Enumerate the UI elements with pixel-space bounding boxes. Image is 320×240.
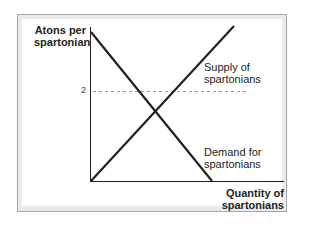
supply-label: Supply of spartonians [204,61,261,85]
demand-label-line2: spartonians [204,158,261,170]
x-axis-label-line2: spartonians [200,199,284,211]
y-axis-label: Atons per spartonian [34,24,86,48]
y-tick-2: 2 [76,85,86,95]
x-axis-label: Quantity of spartonians [200,187,284,211]
demand-curve [91,32,212,181]
y-axis-label-line2: spartonian [34,36,86,48]
supply-label-line1: Supply of [204,61,261,73]
y-axis-label-line1: Atons per [34,24,86,36]
supply-label-line2: spartonians [204,73,261,85]
x-axis-label-line1: Quantity of [200,187,284,199]
demand-label: Demand for spartonians [204,146,261,170]
demand-label-line1: Demand for [204,146,261,158]
